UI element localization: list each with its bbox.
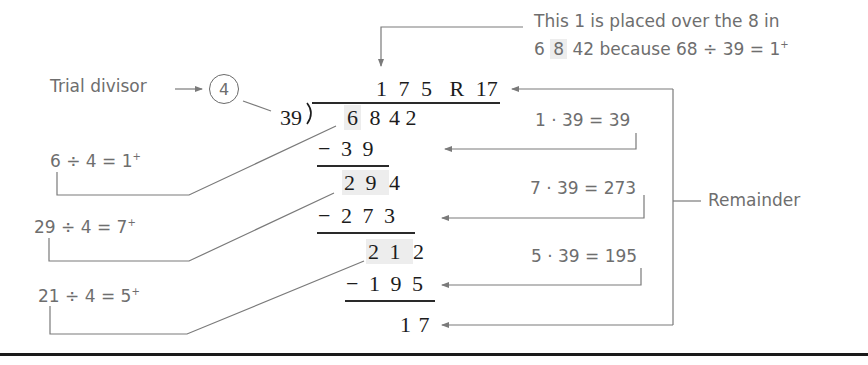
digit: 2 <box>413 239 424 264</box>
subtract-rule-3 <box>345 300 435 302</box>
minus-sign: − <box>318 136 330 161</box>
right-arrow-1 <box>445 133 636 149</box>
digit: 7 <box>419 312 430 337</box>
annotation-text: 6 ÷ 4 = 1 <box>50 151 133 171</box>
divisor: 39 <box>280 107 302 129</box>
subtract-rule-2 <box>317 232 415 234</box>
plus-sup: + <box>131 286 139 297</box>
quotient-row: 1 7 5 R 17 <box>376 78 498 100</box>
right-annotation-1: 1 · 39 = 39 <box>535 112 630 129</box>
left-annotation-2: 29 ÷ 4 = 7+ <box>34 218 136 236</box>
remainder-label: Remainder <box>708 192 800 209</box>
right-arrow-3 <box>442 268 641 285</box>
digit: 9 <box>362 136 373 161</box>
digit: 2 <box>368 239 379 264</box>
annotation-text: 21 ÷ 4 = 5 <box>38 286 131 306</box>
dividend-digit-2: 2 <box>406 105 417 130</box>
minus-sign: − <box>346 271 358 296</box>
digit: 1 <box>400 312 411 337</box>
digit: 2 <box>344 170 355 195</box>
top-note-line2: 6 8 42 because 68 ÷ 39 = 1+ <box>534 40 789 58</box>
top-note-reason: 42 because 68 ÷ 39 = 1 <box>572 39 780 59</box>
dividend-digit-4: 4 <box>389 105 400 130</box>
right-annotation-3: 5 · 39 = 195 <box>531 248 637 265</box>
dividend-digit-8: 8 <box>370 105 381 130</box>
division-bracket <box>307 103 311 124</box>
dividend-row: 6 8 4 2 <box>344 107 417 129</box>
minus-sign: − <box>318 203 330 228</box>
vinculum <box>312 102 500 104</box>
right-annotation-2: 7 · 39 = 273 <box>530 180 636 197</box>
left-annotation-3: 21 ÷ 4 = 5+ <box>38 287 140 305</box>
quotient-digit-7: 7 <box>399 76 410 101</box>
top-note-digit-8-highlight: 8 <box>550 39 567 59</box>
quotient-digit-5: 5 <box>421 76 432 101</box>
quotient-digit-1: 1 <box>376 76 387 101</box>
digit: 9 <box>366 170 377 195</box>
dividend-digit-6: 6 <box>344 105 361 130</box>
plus-sup: + <box>133 151 141 162</box>
digit: 5 <box>412 271 423 296</box>
subtract-195-row: − 1 9 5 <box>346 273 423 295</box>
trial-divisor-circle: 4 <box>209 74 239 104</box>
long-division-diagram: This 1 is placed over the 8 in 6 8 42 be… <box>0 0 868 365</box>
left-annotation-1: 6 ÷ 4 = 1+ <box>50 152 141 170</box>
bottom-divider <box>0 353 868 356</box>
right-arrow-2 <box>442 195 644 218</box>
circle-to-divisor-line <box>243 101 271 111</box>
final-remainder-row: 1 7 <box>400 314 430 336</box>
partial-highlight: 2 1 <box>366 239 413 264</box>
trial-divisor-label: Trial divisor <box>50 78 147 95</box>
subtract-39-row: − 3 9 <box>318 138 373 160</box>
digit: 1 <box>390 239 401 264</box>
digit: 3 <box>384 203 395 228</box>
digit: 9 <box>390 271 401 296</box>
partial-294-row: 2 9 4 <box>342 172 400 194</box>
subtract-273-row: − 2 7 3 <box>318 205 395 227</box>
top-note-plus: + <box>780 39 788 50</box>
top-note-line1: This 1 is placed over the 8 in <box>534 13 780 30</box>
digit: 1 <box>369 271 380 296</box>
remainder-R: R <box>450 76 465 101</box>
subtract-rule-1 <box>317 165 389 167</box>
top-note-digit-6: 6 <box>534 39 545 59</box>
top-note-arrow <box>381 27 523 66</box>
digit: 4 <box>389 170 400 195</box>
trial-divisor-value: 4 <box>219 80 229 99</box>
digit: 2 <box>341 203 352 228</box>
plus-sup: + <box>127 217 135 228</box>
annotation-text: 29 ÷ 4 = 7 <box>34 217 127 237</box>
partial-212-row: 2 1 2 <box>366 241 424 263</box>
quotient-remainder-17: 17 <box>476 76 498 101</box>
digit: 7 <box>362 203 373 228</box>
digit: 3 <box>341 136 352 161</box>
partial-highlight: 2 9 <box>342 170 389 195</box>
